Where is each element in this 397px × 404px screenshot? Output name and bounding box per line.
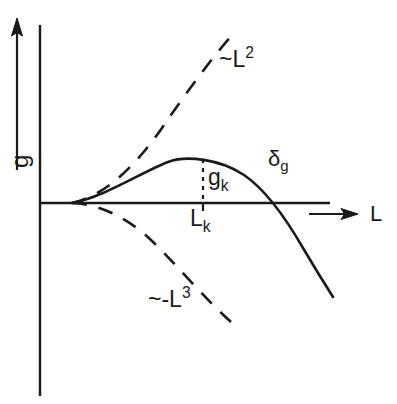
peak-position-subscript: k [203, 218, 211, 235]
peak-position-label: Lk [190, 207, 211, 230]
x-axis-arrow-icon [309, 209, 358, 220]
quadratic-curve-exponent: 2 [245, 44, 254, 61]
cubic-curve-exponent: 3 [182, 284, 191, 301]
quadratic-curve-label: ~L2 [219, 48, 254, 71]
beta-function-label: δg [268, 148, 289, 170]
beta-function-base: δ [268, 146, 280, 171]
peak-position-base: L [190, 205, 203, 231]
beta-function-subscript: g [280, 157, 288, 174]
y-axis-arrow-icon [12, 18, 23, 170]
cubic-curve-label: ~-L3 [148, 288, 191, 311]
rg-flow-figure: g L ~L2 ~-L3 gk Lk δg [0, 0, 397, 404]
figure-canvas [0, 0, 397, 404]
peak-height-label: gk [208, 166, 229, 189]
x-axis-label: L [370, 203, 382, 225]
quadratic-curve-base: ~L [219, 46, 245, 72]
peak-height-subscript: k [221, 177, 229, 194]
y-axis-label: g [8, 155, 32, 168]
peak-height-base: g [208, 164, 221, 190]
cubic-curve-base: ~-L [148, 286, 182, 312]
